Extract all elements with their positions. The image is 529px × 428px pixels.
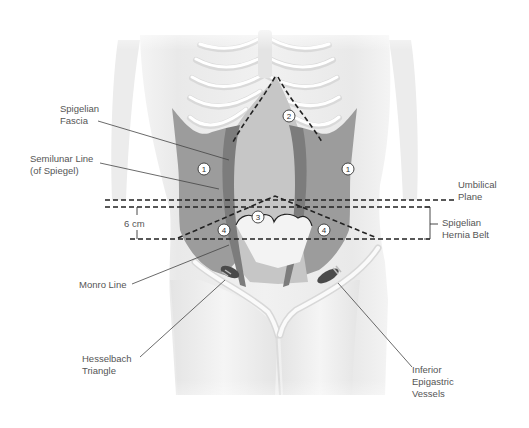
region-1-right: 1 bbox=[346, 165, 351, 174]
label-spigelian-hernia-belt: Spigelian Hernia Belt bbox=[442, 217, 489, 240]
label-hesselbach-triangle: Hesselbach Triangle bbox=[82, 353, 134, 376]
region-1-left: 1 bbox=[202, 165, 207, 174]
region-2: 2 bbox=[287, 112, 292, 121]
label-semilunar-line: Semilunar Line (of Spiegel) bbox=[30, 153, 96, 176]
label-monro-line: Monro Line bbox=[79, 279, 127, 290]
label-six-cm: 6 cm bbox=[124, 218, 145, 229]
region-3: 3 bbox=[256, 213, 261, 222]
region-4-right: 4 bbox=[322, 226, 327, 235]
anatomy-illustration: 1 1 2 3 4 4 Spigelian Fascia Semilunar L… bbox=[0, 0, 529, 428]
abdominal-wall-diagram: 1 1 2 3 4 4 Spigelian Fascia Semilunar L… bbox=[0, 0, 529, 428]
hernia-belt-bracket bbox=[424, 207, 438, 239]
label-spigelian-fascia: Spigelian Fascia bbox=[60, 103, 102, 126]
label-umbilical-plane: Umbilical Plane bbox=[458, 179, 499, 202]
region-4-left: 4 bbox=[222, 226, 227, 235]
